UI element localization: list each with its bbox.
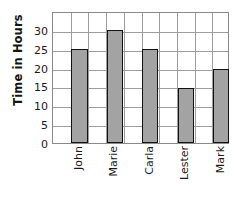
y-axis-tick-label: 30 xyxy=(22,25,48,36)
x-axis-tick-label: John xyxy=(71,146,86,199)
x-axis-tick: Marie xyxy=(105,146,122,199)
y-axis-tick-label: 5 xyxy=(22,120,48,131)
x-axis-tick: Mark xyxy=(212,146,229,199)
x-axis-tick-labels: JohnMarieCarlaLesterMark xyxy=(52,146,229,199)
x-axis-tick-label: Marie xyxy=(106,146,121,199)
x-axis-tick-label: Lester xyxy=(177,146,192,199)
bar-chart: Time in Hours 051015202530 JohnMarieCarl… xyxy=(0,0,238,199)
y-axis-tick-label: 20 xyxy=(22,63,48,74)
plot-area xyxy=(52,12,229,144)
y-axis-tick-label: 25 xyxy=(22,44,48,55)
y-axis-tick-label: 15 xyxy=(22,82,48,93)
y-axis-tick-labels: 051015202530 xyxy=(22,12,48,144)
x-axis-tick: Lester xyxy=(176,146,193,199)
x-axis-tick-label: Carla xyxy=(142,146,157,199)
bar xyxy=(71,49,87,143)
bar xyxy=(213,69,229,143)
bar xyxy=(142,49,158,143)
x-axis-tick-label: Mark xyxy=(213,146,228,199)
x-axis-tick: Carla xyxy=(141,146,158,199)
x-axis-tick: John xyxy=(70,146,87,199)
bars-layer xyxy=(53,13,228,143)
y-axis-tick-label: 10 xyxy=(22,101,48,112)
bar xyxy=(107,30,123,143)
y-axis-tick-label: 0 xyxy=(22,139,48,150)
bar xyxy=(178,88,194,143)
